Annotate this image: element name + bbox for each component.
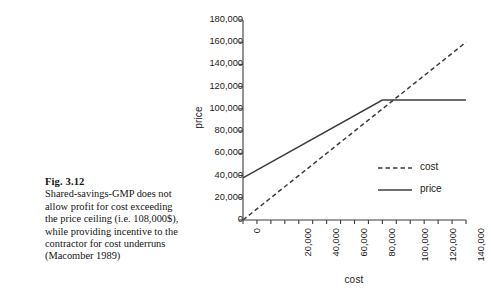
figure-caption-text: Shared-savings-GMP does not allow profit… xyxy=(45,188,187,262)
legend xyxy=(378,168,412,190)
figure-caption: Fig. 3.12 Shared-savings-GMP does not al… xyxy=(45,176,187,263)
figure-page: Fig. 3.12 Shared-savings-GMP does not al… xyxy=(0,0,491,298)
chart-container: price cost 020,00040,00060,00080,000100,… xyxy=(186,8,486,298)
figure-number: Fig. 3.12 xyxy=(45,176,187,188)
plot-area xyxy=(186,8,486,298)
legend-label-cost: cost xyxy=(420,161,438,172)
legend-label-price: price xyxy=(420,183,442,194)
